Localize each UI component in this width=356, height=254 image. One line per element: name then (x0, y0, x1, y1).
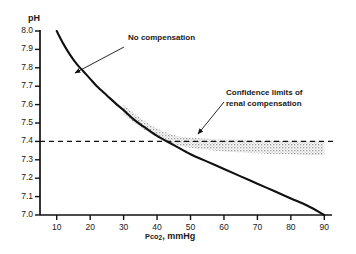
x-tick-label: 20 (77, 222, 103, 232)
y-tick-label: 7.8 (7, 62, 33, 72)
x-tick-label: 60 (211, 222, 237, 232)
x-tick-label: 10 (44, 222, 70, 232)
annotation-confidence-line-1: Confidence limits of (226, 88, 302, 99)
x-tick-label: 80 (278, 222, 304, 232)
y-tick-label: 7.3 (7, 154, 33, 164)
no-compensation-curve (57, 31, 325, 215)
axes (35, 30, 332, 220)
annotation-arrow (75, 47, 124, 73)
annotation-no-compensation: No compensation (128, 33, 195, 44)
annotation-arrows (75, 47, 224, 134)
x-axis-title-main: Pco (145, 232, 159, 241)
ph-pco2-chart: 7.07.17.27.37.47.57.67.77.87.98.01020304… (0, 0, 356, 254)
x-tick-label: 30 (111, 222, 137, 232)
y-tick-label: 8.0 (7, 25, 33, 35)
annotation-confidence-limits: Confidence limits of renal compensation (226, 88, 302, 109)
x-axis-title-units: , mmHg (162, 231, 195, 241)
y-tick-label: 7.5 (7, 117, 33, 127)
x-tick-label: 90 (311, 222, 337, 232)
x-axis-title: Pco2, mmHg (145, 231, 195, 241)
confidence-band (124, 105, 325, 156)
x-tick-label: 70 (244, 222, 270, 232)
annotation-confidence-line-2: renal compensation (226, 99, 302, 110)
y-tick-label: 7.9 (7, 43, 33, 53)
y-tick-label: 7.1 (7, 191, 33, 201)
y-tick-label: 7.0 (7, 209, 33, 219)
y-tick-label: 7.4 (7, 135, 33, 145)
y-tick-label: 7.2 (7, 172, 33, 182)
y-tick-label: 7.7 (7, 80, 33, 90)
y-tick-label: 7.6 (7, 99, 33, 109)
annotation-arrow (198, 102, 224, 134)
y-axis-title: pH (28, 13, 40, 23)
